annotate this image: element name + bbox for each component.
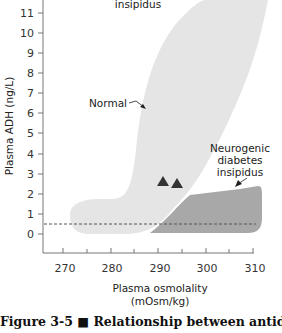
chart: 0 1 2 3 4 5 6 7 8 9 10 11 270 280 290 30… [0, 0, 282, 333]
x-ticks [63, 248, 253, 253]
y-tick-label: 5 [27, 127, 34, 140]
y-tick-label: 0 [27, 228, 34, 241]
x-axis-title-line1: Plasma osmolality [112, 282, 207, 294]
y-tick-labels: 0 1 2 3 4 5 6 7 8 9 10 11 [20, 7, 34, 241]
y-tick-label: 9 [27, 47, 34, 60]
x-tick-label: 310 [245, 262, 266, 275]
x-tick-label: 280 [102, 262, 123, 275]
annotation-neurogenic-line3: insipidus [217, 166, 263, 178]
y-tick-label: 6 [27, 107, 34, 120]
y-tick-label: 1 [27, 208, 34, 221]
x-tick-label: 290 [150, 262, 171, 275]
annotation-neurogenic-line1: Neurogenic [210, 142, 270, 154]
y-tick-label: 10 [20, 27, 34, 40]
x-tick-label: 270 [55, 262, 76, 275]
y-tick-label: 2 [27, 188, 34, 201]
annotation-nephrogenic-cropped: insipidus [115, 0, 161, 10]
y-axis-title: Plasma ADH (ng/L) [3, 77, 15, 176]
annotation-neurogenic-line2: diabetes [217, 154, 262, 166]
annotation-normal: Normal [89, 97, 127, 109]
x-tick-label: 300 [197, 262, 218, 275]
y-tick-label: 7 [27, 87, 34, 100]
y-tick-label: 8 [27, 67, 34, 80]
y-tick-label: 4 [27, 148, 34, 161]
y-tick-label: 3 [27, 168, 34, 181]
x-tick-labels: 270 280 290 300 310 [55, 262, 266, 275]
neurogenic-arrow [235, 178, 247, 187]
y-ticks [38, 13, 43, 234]
figure-caption: Figure 3-5 ■ Relationship between antidi… [0, 314, 282, 329]
x-axis-title-line2: (mOsm/kg) [131, 295, 190, 307]
y-tick-label: 11 [20, 7, 34, 20]
